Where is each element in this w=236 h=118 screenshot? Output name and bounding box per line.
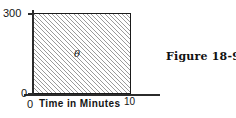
figure-container: θ 300 0 0 10 Time in Minutes Figure 18-9… — [0, 0, 236, 118]
plot-area: θ 300 0 0 10 Time in Minutes — [0, 0, 170, 118]
hatched-region — [33, 13, 131, 94]
x-axis-title: Time in Minutes — [39, 99, 120, 109]
x-axis-label-max: 10 — [124, 97, 135, 107]
y-axis-tick-min — [28, 93, 33, 95]
x-axis-line — [24, 94, 160, 96]
y-axis-label-max: 300 — [3, 8, 21, 19]
x-axis-label-min: 0 — [27, 99, 33, 110]
theta-annotation: θ — [74, 49, 80, 59]
y-axis-line — [32, 10, 34, 96]
figure-caption: Figure 18-91 — [166, 51, 236, 62]
y-axis-tick-max — [28, 13, 33, 15]
